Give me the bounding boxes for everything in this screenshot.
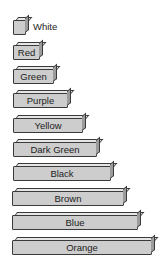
rod-blue: Blue (12, 212, 141, 230)
rod-label-purple: Purple (13, 93, 68, 108)
rod-side-face (39, 40, 43, 58)
rod-label-black: Black (13, 166, 111, 181)
rod-brown: Brown (12, 188, 127, 206)
rod-label-dark-green: Dark Green (13, 142, 97, 157)
rod-dark-green: Dark Green (13, 139, 100, 157)
rod-green: Green (13, 66, 57, 84)
rod-label-green: Green (13, 69, 54, 84)
rod-red: Red (13, 42, 43, 60)
rod-white (13, 17, 29, 35)
rod-side-face (137, 210, 141, 228)
rod-side-face (151, 235, 155, 253)
rod-label-orange: Orange (12, 240, 152, 255)
rod-side-face (96, 137, 100, 155)
rod-label-yellow: Yellow (13, 118, 83, 133)
rod-side-face (67, 88, 71, 106)
rod-side-face (123, 186, 127, 204)
rod-side-face (110, 161, 114, 179)
rod-label-red: Red (13, 45, 40, 60)
rod-label-blue: Blue (12, 215, 138, 230)
rod-label-brown: Brown (12, 191, 124, 206)
rod-orange: Orange (12, 237, 155, 255)
rod-label-white: White (33, 21, 57, 32)
rod-side-face (82, 113, 86, 131)
rod-side-face (53, 64, 57, 82)
rod-side-face (25, 15, 29, 33)
rod-black: Black (13, 163, 114, 181)
rod-purple: Purple (13, 90, 71, 108)
rod-yellow: Yellow (13, 115, 86, 133)
